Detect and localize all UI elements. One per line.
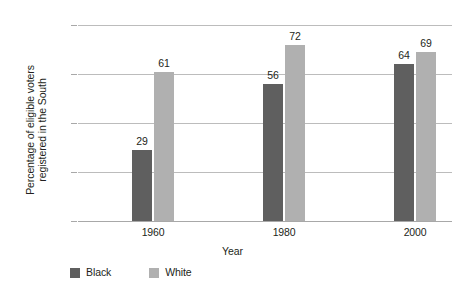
y-tick-mark-0 bbox=[71, 221, 77, 222]
x-tick-label-2000: 2000 bbox=[385, 227, 445, 238]
legend-label: Black bbox=[86, 267, 111, 278]
x-tick-label-1980: 1980 bbox=[254, 227, 314, 238]
bar-white-1980[interactable]: 72 bbox=[285, 25, 305, 221]
bar-white-2000[interactable]: 69 bbox=[416, 25, 436, 221]
legend-label: White bbox=[165, 267, 191, 278]
bar-value-label: 56 bbox=[267, 70, 278, 81]
bar-value-label: 72 bbox=[289, 31, 300, 42]
bar-rect bbox=[285, 45, 305, 221]
bar-group-1960: 2961 bbox=[131, 25, 175, 221]
y-tick-mark-80 bbox=[71, 25, 77, 26]
y-tick-mark-60 bbox=[71, 74, 77, 75]
bar-white-1960[interactable]: 61 bbox=[154, 25, 174, 221]
bar-value-label: 61 bbox=[158, 58, 169, 69]
y-tick-mark-20 bbox=[71, 172, 77, 173]
bar-rect bbox=[416, 52, 436, 221]
bar-value-label: 64 bbox=[398, 50, 409, 61]
bar-rect bbox=[394, 64, 414, 221]
bar-group-1980: 5672 bbox=[262, 25, 306, 221]
y-axis-title: Percentage of eligible voters registered… bbox=[19, 25, 53, 235]
bar-group-2000: 6469 bbox=[393, 25, 437, 221]
bar-value-label: 69 bbox=[420, 38, 431, 49]
bar-value-label: 29 bbox=[136, 136, 147, 147]
chart-legend: BlackWhite bbox=[70, 267, 192, 278]
y-tick-mark-40 bbox=[71, 123, 77, 124]
legend-item-white[interactable]: White bbox=[149, 267, 191, 278]
legend-swatch-icon bbox=[70, 268, 80, 278]
gridline-0 bbox=[78, 221, 452, 222]
legend-swatch-icon bbox=[149, 268, 159, 278]
bar-black-1980[interactable]: 56 bbox=[263, 25, 283, 221]
bar-black-2000[interactable]: 64 bbox=[394, 25, 414, 221]
plot-area: 020406080296156726469 bbox=[78, 25, 452, 221]
x-tick-label-1960: 1960 bbox=[123, 227, 183, 238]
bar-rect bbox=[132, 150, 152, 221]
bar-rect bbox=[154, 72, 174, 221]
bar-chart: Percentage of eligible voters registered… bbox=[0, 0, 465, 301]
bar-black-1960[interactable]: 29 bbox=[132, 25, 152, 221]
y-axis-title-line-1: Percentage of eligible voters bbox=[24, 65, 37, 195]
bar-rect bbox=[263, 84, 283, 221]
x-axis-title: Year bbox=[0, 245, 465, 257]
legend-item-black[interactable]: Black bbox=[70, 267, 111, 278]
y-axis-title-line-2: registered in the South bbox=[36, 78, 49, 181]
